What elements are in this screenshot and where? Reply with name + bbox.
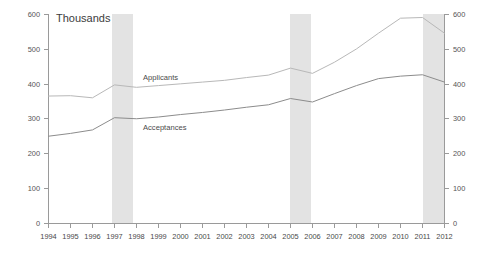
left-ytick-label-500: 500	[28, 45, 40, 54]
right-ytick-label-500: 500	[453, 45, 465, 54]
x-tick-label-2001: 2001	[194, 232, 210, 241]
x-tick-label-2002: 2002	[216, 232, 232, 241]
left-ytick-label-300: 300	[28, 114, 40, 123]
x-tick-label-2010: 2010	[392, 232, 408, 241]
right-ytick-label-0: 0	[453, 219, 457, 228]
left-ytick-label-200: 200	[28, 149, 40, 158]
x-tick-label-1998: 1998	[128, 232, 144, 241]
recession-band-2005-2006	[290, 14, 311, 223]
x-tick-label-2011: 2011	[415, 232, 431, 241]
line-chart: 600 500 400 300 200 100 0 600 500 400 30…	[0, 0, 493, 260]
x-tick-label-2007: 2007	[326, 232, 342, 241]
right-ytick-label-200: 200	[453, 149, 465, 158]
x-tick-label-1997: 1997	[106, 232, 122, 241]
x-tick-label-1994: 1994	[40, 232, 56, 241]
x-tick-label-2005: 2005	[282, 232, 298, 241]
left-ytick-label-100: 100	[28, 184, 40, 193]
acceptances-label: Acceptances	[143, 123, 187, 132]
x-tick-label-2006: 2006	[304, 232, 320, 241]
chart-title: Thousands	[56, 12, 111, 24]
right-ytick-label-600: 600	[453, 10, 465, 19]
recession-band-2011-2012	[423, 14, 444, 223]
x-tick-label-1996: 1996	[84, 232, 100, 241]
chart-background	[0, 0, 493, 260]
x-tick-label-2004: 2004	[260, 232, 276, 241]
left-ytick-label-600: 600	[28, 10, 40, 19]
x-tick-label-1999: 1999	[150, 232, 166, 241]
x-tick-label-2003: 2003	[238, 232, 254, 241]
x-tick-label-2009: 2009	[370, 232, 386, 241]
x-tick-label-2012: 2012	[436, 232, 452, 241]
right-ytick-label-400: 400	[453, 80, 465, 89]
applicants-label: Applicants	[143, 73, 178, 82]
x-tick-label-2000: 2000	[172, 232, 188, 241]
right-ytick-label-300: 300	[453, 114, 465, 123]
right-ytick-label-100: 100	[453, 184, 465, 193]
x-tick-label-2008: 2008	[348, 232, 364, 241]
left-ytick-label-400: 400	[28, 80, 40, 89]
chart-canvas: 600 500 400 300 200 100 0 600 500 400 30…	[0, 0, 493, 260]
x-tick-label-1995: 1995	[62, 232, 78, 241]
left-ytick-label-0: 0	[36, 219, 40, 228]
